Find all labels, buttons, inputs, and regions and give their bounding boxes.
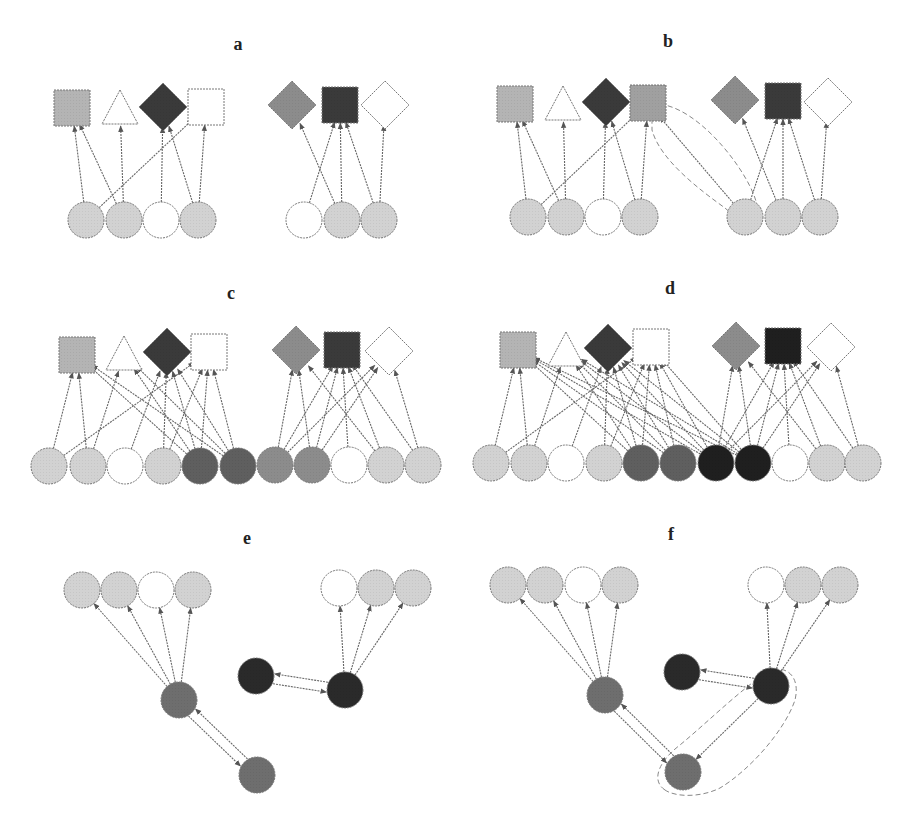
edge-arrow (793, 361, 853, 448)
edge-arrow (621, 704, 673, 756)
edge-arrow (836, 366, 858, 445)
node-circle (331, 447, 367, 483)
node-texture (238, 658, 274, 694)
edge-arrow (340, 123, 341, 202)
node-texture (101, 572, 137, 608)
edge-arrow (776, 602, 797, 669)
node-texture (822, 567, 858, 603)
edges (53, 362, 417, 455)
node-texture (765, 83, 801, 119)
node-texture (660, 445, 696, 481)
node-triangle (545, 86, 581, 120)
node-texture (586, 445, 622, 481)
node-triangle (106, 336, 142, 370)
node-texture (623, 445, 659, 481)
edge-arrow (352, 365, 412, 451)
edge-arrow (789, 363, 820, 446)
panel-a: a (54, 34, 409, 238)
edge-arrow (308, 366, 375, 451)
edge-arrow (213, 369, 233, 448)
edge-arrow (380, 125, 384, 202)
node-diamond (365, 327, 413, 375)
edges (74, 119, 384, 207)
edge-arrow (161, 127, 162, 202)
node-circle (585, 199, 621, 235)
edge-arrow (641, 121, 646, 199)
edge-arrow (278, 370, 292, 448)
node-texture (361, 202, 397, 238)
node-texture (587, 677, 623, 713)
edge-arrow (699, 680, 752, 688)
edge-arrow (199, 125, 204, 202)
node-texture (511, 445, 547, 481)
edge-arrow (614, 711, 666, 763)
edge-arrow (531, 362, 627, 451)
node-texture (664, 654, 700, 690)
panel-label-d: d (665, 278, 675, 298)
panel-label-f: f (668, 524, 675, 544)
edge-arrow (729, 361, 817, 450)
node-texture (324, 332, 360, 368)
node-texture (665, 754, 701, 790)
node-texture (161, 682, 197, 718)
node-circle (565, 567, 601, 603)
node-texture (765, 328, 801, 364)
edge-arrow (299, 370, 310, 447)
node-circle (286, 202, 322, 238)
edge-arrow (579, 363, 666, 450)
edge-arrow (355, 603, 403, 675)
edges (495, 358, 858, 456)
panel-label-a: a (234, 34, 243, 54)
edge-arrow (137, 367, 225, 454)
edge-arrow (79, 373, 86, 448)
node-texture (622, 199, 658, 235)
node-texture (548, 199, 584, 235)
node-texture (473, 445, 509, 481)
edge-arrow (520, 368, 528, 445)
edge-arrow (121, 126, 124, 202)
node-texture (785, 567, 821, 603)
node-texture (602, 567, 638, 603)
edge-arrow (309, 122, 334, 203)
node-texture (712, 322, 760, 370)
panel-label-e: e (243, 528, 251, 548)
edge-arrow (781, 600, 830, 671)
node-texture (145, 448, 181, 484)
node-texture (698, 445, 734, 481)
edge-arrow (522, 120, 558, 200)
edge-arrow (169, 126, 193, 203)
node-texture (497, 86, 533, 122)
node-texture (268, 81, 316, 129)
node-texture (753, 668, 789, 704)
node-texture (395, 570, 431, 606)
edge-arrow (343, 368, 348, 447)
node-texture (490, 567, 526, 603)
edge-arrow (495, 368, 514, 446)
edge-arrow (181, 608, 190, 682)
panels-layer: abcdef (31, 31, 881, 795)
edge-arrow (725, 362, 774, 448)
edge-arrow (767, 603, 770, 668)
edge-arrow (554, 601, 597, 679)
edge-arrow (94, 371, 119, 449)
node-texture (527, 567, 563, 603)
edge-arrow (273, 684, 326, 692)
node-texture (510, 199, 546, 235)
node-circle (772, 445, 808, 481)
edge-arrow (581, 359, 737, 453)
node-triangle (548, 332, 584, 366)
edge-arrow (821, 122, 826, 199)
edge-arrow (170, 369, 203, 450)
node-texture (324, 202, 360, 238)
edge-arrow (603, 122, 605, 199)
node-texture (257, 447, 293, 483)
edge-arrow (340, 606, 344, 672)
node-circle (548, 445, 584, 481)
node-texture (180, 202, 216, 238)
edge-arrow (743, 119, 777, 201)
edge-arrow (64, 362, 195, 455)
node-triangle (102, 90, 138, 124)
node-texture (143, 328, 191, 376)
node-diamond (361, 81, 409, 129)
edge-arrow (757, 363, 778, 445)
